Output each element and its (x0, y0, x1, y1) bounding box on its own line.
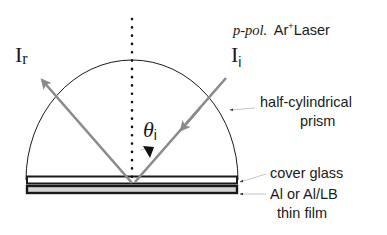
cover-glass-label: cover glass (270, 165, 343, 181)
cover-glass-pointer-icon (240, 174, 266, 182)
incident-beam-arrow-icon (181, 108, 200, 130)
angle-arrow-icon (143, 146, 154, 158)
prism-label-line2: prism (300, 113, 335, 129)
incidence-angle-label: θi (143, 117, 157, 143)
incident-intensity-label: Ii (231, 42, 241, 70)
thin-film-label-line1: Al or Al/LB (270, 186, 338, 202)
prism-label-line1: half-cylindrical (260, 94, 352, 110)
laser-label: p-pol. Ar+Laser (232, 21, 330, 38)
atr-diagram: p-pol. Ar+Laser Ii Ir θi half-cylindrica… (0, 0, 387, 235)
prism-pointer-icon (230, 108, 255, 110)
reflected-intensity-label: Ir (15, 42, 28, 67)
reflected-beam (42, 80, 132, 183)
thin-film (27, 186, 237, 193)
thin-film-label-line2: thin film (277, 205, 327, 221)
